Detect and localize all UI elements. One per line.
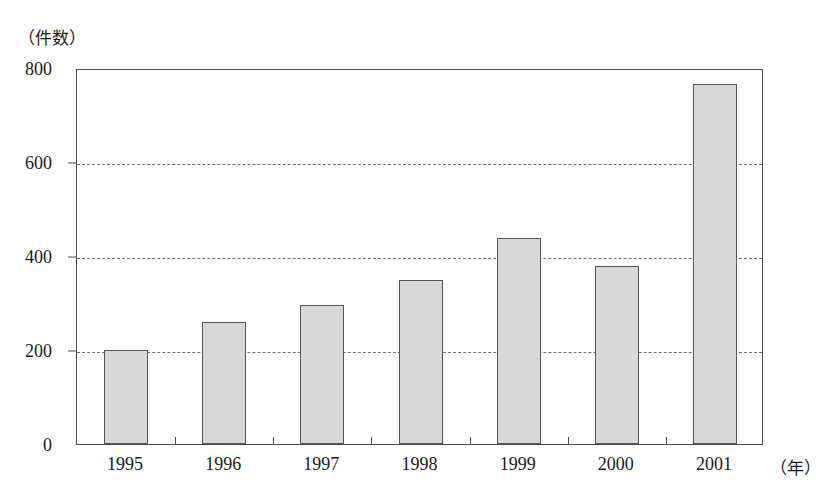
bar xyxy=(399,280,443,445)
bar xyxy=(595,266,639,444)
x-tick-label: 1995 xyxy=(70,455,180,473)
x-tick-label: 2000 xyxy=(561,455,671,473)
x-tick-label: 1999 xyxy=(463,455,573,473)
y-tick-mark xyxy=(68,163,76,164)
bar-chart: （件数） 0200400600800 199519961997199819992… xyxy=(0,0,816,504)
y-tick-mark xyxy=(68,257,76,258)
x-tick-mark xyxy=(470,437,471,444)
gridline xyxy=(77,258,762,259)
x-tick-mark xyxy=(175,437,176,444)
x-axis-unit-label: （年） xyxy=(770,454,816,479)
x-tick-mark xyxy=(273,437,274,444)
y-tick-label: 800 xyxy=(0,60,52,78)
x-tick-mark xyxy=(371,437,372,444)
y-tick-label: 400 xyxy=(0,248,52,266)
bar xyxy=(693,84,737,444)
gridline xyxy=(77,164,762,165)
y-tick-label: 0 xyxy=(0,436,52,454)
bar xyxy=(300,305,344,444)
x-tick-mark xyxy=(666,437,667,444)
x-tick-mark xyxy=(568,437,569,444)
y-tick-mark xyxy=(68,351,76,352)
x-tick-label: 2001 xyxy=(659,455,769,473)
x-tick-label: 1997 xyxy=(266,455,376,473)
plot-area xyxy=(76,69,763,445)
x-tick-label: 1998 xyxy=(365,455,475,473)
y-axis-unit-label: （件数） xyxy=(18,24,86,49)
bar xyxy=(202,322,246,444)
x-tick-label: 1996 xyxy=(168,455,278,473)
y-tick-label: 200 xyxy=(0,342,52,360)
y-tick-label: 600 xyxy=(0,154,52,172)
bar xyxy=(497,238,541,444)
bar xyxy=(104,350,148,444)
